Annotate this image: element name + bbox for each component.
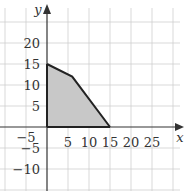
y-tick-label: −10 (13, 162, 40, 177)
x-tick-label: 20 (123, 135, 140, 150)
feasible-region (47, 64, 110, 127)
y-tick-label: 5 (32, 99, 40, 114)
chart: −55101520252015105−5−10xy (0, 0, 185, 191)
y-axis-arrow-icon (43, 4, 51, 14)
x-tick-label: 25 (144, 135, 161, 150)
x-axis-label: x (176, 130, 184, 145)
y-axis-label: y (33, 2, 42, 17)
y-tick-label: 15 (23, 57, 40, 72)
x-tick-label: 5 (64, 135, 72, 150)
y-tick-label: 10 (23, 78, 40, 93)
y-tick-label: −5 (21, 141, 40, 156)
y-tick-label: 20 (23, 36, 40, 51)
x-tick-label: 10 (81, 135, 98, 150)
x-tick-label: 15 (102, 135, 119, 150)
